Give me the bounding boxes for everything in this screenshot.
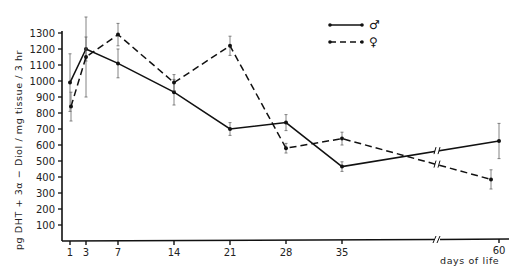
y-tick-label: 1300	[30, 28, 55, 39]
data-point	[68, 81, 72, 85]
data-point	[228, 127, 232, 131]
data-point	[284, 146, 288, 150]
y-axis: 1002003004005006007008009001000110012001…	[30, 28, 62, 242]
x-tick-label: 28	[280, 247, 293, 258]
x-tick-label: 21	[224, 247, 237, 258]
y-tick-label: 1100	[30, 60, 55, 71]
series-line	[71, 35, 491, 180]
y-tick-label: 500	[36, 156, 55, 167]
y-tick-label: 300	[36, 188, 55, 199]
data-point	[284, 121, 288, 125]
y-tick-label: 700	[36, 124, 55, 135]
x-axis-title: days of life	[440, 255, 499, 266]
male-symbol-icon: ♂	[369, 18, 380, 32]
x-tick-label: 35	[336, 247, 349, 258]
y-tick-label: 600	[36, 140, 55, 151]
x-tick-label: 7	[115, 247, 121, 258]
legend-item-female: ♀	[328, 35, 378, 49]
data-point	[116, 61, 120, 65]
data-point	[340, 137, 344, 141]
data-point	[340, 165, 344, 169]
y-tick-label: 1200	[30, 44, 55, 55]
x-tick-label: 3	[83, 247, 89, 258]
data-point	[69, 105, 73, 109]
series-female	[69, 17, 493, 189]
y-tick-label: 400	[36, 172, 55, 183]
data-point	[489, 177, 493, 181]
data-point	[497, 139, 501, 143]
legend: ♂♀	[328, 18, 380, 49]
y-tick-label: 100	[36, 220, 55, 231]
series-male	[68, 37, 501, 171]
x-tick-label: 14	[168, 247, 181, 258]
data-point	[116, 33, 120, 37]
legend-item-male: ♂	[328, 18, 380, 32]
y-tick-label: 1000	[30, 76, 55, 87]
series-layer	[68, 17, 501, 189]
y-tick-label: 900	[36, 92, 55, 103]
female-symbol-icon: ♀	[369, 35, 378, 49]
data-point	[84, 55, 88, 59]
line-chart: 1002003004005006007008009001000110012001…	[0, 0, 521, 277]
data-point	[172, 81, 176, 85]
data-point	[228, 44, 232, 48]
x-tick-label: 1	[67, 247, 73, 258]
y-tick-label: 200	[36, 204, 55, 215]
y-tick-label: 800	[36, 108, 55, 119]
y-axis-title: pg DHT + 3α − Diol / mg tissue / 3 hr	[13, 50, 24, 250]
